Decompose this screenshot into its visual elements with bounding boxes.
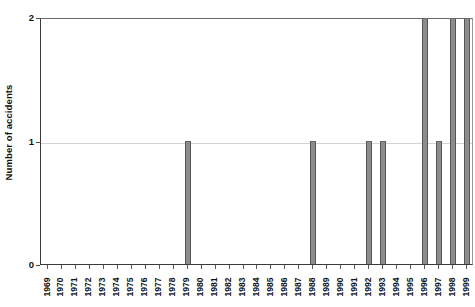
bar-1993 (380, 141, 386, 265)
x-axis-label-1986: 1986 (278, 270, 290, 306)
x-axis-label-text: 1971 (70, 278, 80, 297)
x-axis-label-1970: 1970 (55, 270, 67, 306)
bar-1999 (464, 18, 470, 264)
x-tick-1998 (452, 265, 453, 269)
x-axis-label-text: 1988 (307, 278, 317, 297)
x-axis-label-1980: 1980 (195, 270, 207, 306)
x-axis-label-text: 1998 (447, 278, 457, 297)
y-tick-mark-2 (36, 18, 40, 19)
x-axis-label-1982: 1982 (223, 270, 235, 306)
x-axis-label-text: 1991 (349, 278, 359, 297)
x-tick-1992 (368, 265, 369, 269)
x-axis-label-1976: 1976 (139, 270, 151, 306)
x-axis-label-1993: 1993 (376, 270, 388, 306)
x-axis-label-text: 1984 (252, 278, 262, 297)
x-axis-label-text: 1979 (182, 278, 192, 297)
x-axis-label-text: 1983 (238, 278, 248, 297)
x-axis-label-text: 1976 (140, 278, 150, 297)
x-axis-label-1977: 1977 (153, 270, 165, 306)
y-tick-label-0: 0 (18, 260, 34, 270)
x-tick-1974 (117, 265, 118, 269)
x-axis-label-text: 1980 (196, 278, 206, 297)
x-axis-label-1973: 1973 (97, 270, 109, 306)
x-axis-label-1984: 1984 (251, 270, 263, 306)
x-axis-label-1989: 1989 (320, 270, 332, 306)
x-tick-1988 (312, 265, 313, 269)
y-tick-label-2: 2 (18, 13, 34, 23)
x-axis-label-text: 1990 (335, 278, 345, 297)
x-tick-1999 (466, 265, 467, 269)
x-axis-label-1999: 1999 (460, 270, 472, 306)
x-axis-label-text: 1970 (56, 278, 66, 297)
y-axis-title-label: Number of accidents (4, 85, 15, 181)
x-axis-label-1979: 1979 (181, 270, 193, 306)
x-axis-label-1994: 1994 (390, 270, 402, 306)
x-axis-label-text: 1992 (363, 278, 373, 297)
y-tick-mark-1 (36, 142, 40, 143)
x-axis-label-text: 1973 (98, 278, 108, 297)
x-tick-1985 (270, 265, 271, 269)
x-axis-label-1988: 1988 (306, 270, 318, 306)
x-axis-label-1990: 1990 (334, 270, 346, 306)
x-tick-1976 (145, 265, 146, 269)
x-axis-label-1992: 1992 (362, 270, 374, 306)
accidents-bar-chart: Number of accidents 19691970197119721973… (0, 0, 475, 307)
x-axis-label-text: 1993 (377, 278, 387, 297)
x-axis-label-text: 1989 (321, 278, 331, 297)
x-tick-1994 (396, 265, 397, 269)
x-axis-label-1975: 1975 (125, 270, 137, 306)
x-axis-label-1987: 1987 (292, 270, 304, 306)
x-tick-1981 (215, 265, 216, 269)
x-tick-1987 (298, 265, 299, 269)
x-axis-label-text: 1977 (154, 278, 164, 297)
x-axis-label-text: 1995 (405, 278, 415, 297)
x-axis-label-1996: 1996 (418, 270, 430, 306)
x-axis-label-1981: 1981 (209, 270, 221, 306)
y-axis-title: Number of accidents (0, 0, 18, 265)
x-tick-1984 (256, 265, 257, 269)
x-axis-label-1978: 1978 (167, 270, 179, 306)
x-axis-label-1969: 1969 (41, 270, 53, 306)
bar-1992 (366, 141, 372, 265)
x-tick-1986 (284, 265, 285, 269)
x-axis-label-1997: 1997 (432, 270, 444, 306)
x-axis-label-text: 1997 (433, 278, 443, 297)
y-tick-mark-0 (36, 265, 40, 266)
bar-1996 (422, 18, 428, 264)
x-tick-1978 (173, 265, 174, 269)
x-axis-label-1985: 1985 (264, 270, 276, 306)
x-axis-label-1983: 1983 (237, 270, 249, 306)
x-axis-label-text: 1975 (126, 278, 136, 297)
x-axis-label-text: 1999 (461, 278, 471, 297)
x-tick-1980 (201, 265, 202, 269)
bar-1979 (185, 141, 191, 265)
x-tick-1973 (103, 265, 104, 269)
bars-layer (41, 19, 472, 264)
x-tick-1970 (61, 265, 62, 269)
x-axis-label-text: 1978 (168, 278, 178, 297)
x-tick-1983 (243, 265, 244, 269)
bar-1988 (310, 141, 316, 265)
x-tick-1995 (410, 265, 411, 269)
x-axis-label-1998: 1998 (446, 270, 458, 306)
x-tick-1982 (229, 265, 230, 269)
x-tick-1969 (47, 265, 48, 269)
x-tick-1990 (340, 265, 341, 269)
x-tick-1997 (438, 265, 439, 269)
x-tick-1991 (354, 265, 355, 269)
x-tick-1979 (187, 265, 188, 269)
x-axis-label-text: 1982 (224, 278, 234, 297)
bar-1998 (450, 18, 456, 264)
x-tick-1975 (131, 265, 132, 269)
x-axis-label-text: 1994 (391, 278, 401, 297)
x-axis-label-1971: 1971 (69, 270, 81, 306)
x-tick-1972 (89, 265, 90, 269)
x-tick-1996 (424, 265, 425, 269)
x-axis-label-text: 1981 (210, 278, 220, 297)
x-axis-label-1972: 1972 (83, 270, 95, 306)
x-axis-label-text: 1985 (265, 278, 275, 297)
x-tick-1993 (382, 265, 383, 269)
x-tick-1989 (326, 265, 327, 269)
x-axis-label-text: 1996 (419, 278, 429, 297)
x-axis-label-1974: 1974 (111, 270, 123, 306)
